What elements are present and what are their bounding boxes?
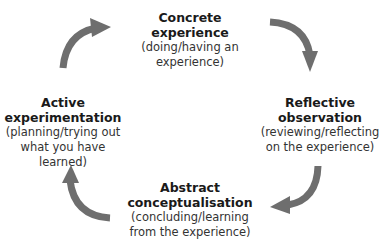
arrowhead-icon [270, 196, 290, 214]
node-title: Abstract [120, 180, 260, 195]
arrowhead-icon [302, 51, 318, 72]
node-title: observation [258, 110, 382, 125]
node-description: what you have learned) [0, 140, 130, 170]
node-title: Reflective [258, 95, 382, 110]
node-description: on the experience) [258, 140, 382, 155]
arrow-abstract-to-active [70, 180, 110, 218]
node-description: (reviewing/reflecting [258, 125, 382, 140]
arrow-active-to-concrete [63, 28, 96, 68]
node-title: Active [0, 95, 130, 110]
node-description: (doing/having an [120, 40, 260, 55]
node-title: experimentation [0, 110, 130, 125]
node-description: (planning/trying out [0, 125, 130, 140]
node-title: conceptualisation [120, 195, 260, 210]
node-concrete-experience: Concrete experience (doing/having an exp… [120, 10, 260, 70]
node-title: Concrete [120, 10, 260, 25]
node-title: experience [120, 25, 260, 40]
node-description: (concluding/learning [120, 210, 260, 225]
node-reflective-observation: Reflective observation (reviewing/reflec… [258, 95, 382, 155]
node-description: from the experience) [120, 225, 260, 240]
node-active-experimentation: Active experimentation (planning/trying … [0, 95, 130, 170]
node-description: experience) [120, 55, 260, 70]
arrow-concrete-to-reflective [270, 22, 310, 55]
arrow-reflective-to-abstract [288, 166, 318, 205]
arrowhead-icon [90, 18, 111, 37]
node-abstract-conceptualisation: Abstract conceptualisation (concluding/l… [120, 180, 260, 240]
